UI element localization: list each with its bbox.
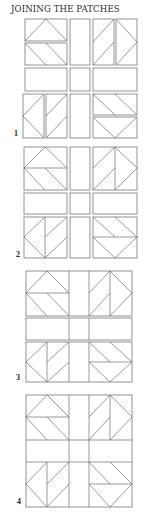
diagram-1 (23, 19, 137, 138)
patch-diagrams (0, 0, 147, 514)
diagram-4 (26, 395, 132, 507)
diagram-2 (24, 147, 137, 258)
diagram-3 (26, 271, 132, 382)
